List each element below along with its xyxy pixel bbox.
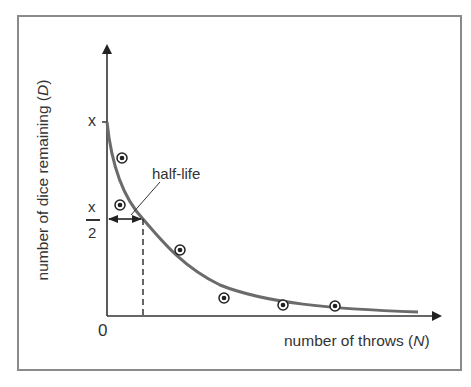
half-fraction-denominator: 2 <box>88 224 96 241</box>
y-axis-label: number of dice remaining (D) <box>34 80 52 281</box>
data-point <box>330 301 340 311</box>
half-life-label: half-life <box>152 165 200 182</box>
half-fraction-numerator: x <box>88 198 96 215</box>
data-point <box>117 153 127 163</box>
data-point <box>175 245 185 255</box>
x-axis-label: number of throws (N) <box>284 332 430 350</box>
data-point <box>219 293 229 303</box>
half-life-leader-line <box>131 182 160 215</box>
decay-curve <box>107 122 418 312</box>
data-point <box>278 300 288 310</box>
origin-label: 0 <box>98 321 107 341</box>
y-tick-label-x: x <box>88 112 96 130</box>
data-point <box>115 200 125 210</box>
decay-plot <box>0 0 471 387</box>
half-fraction-bar <box>86 219 100 221</box>
